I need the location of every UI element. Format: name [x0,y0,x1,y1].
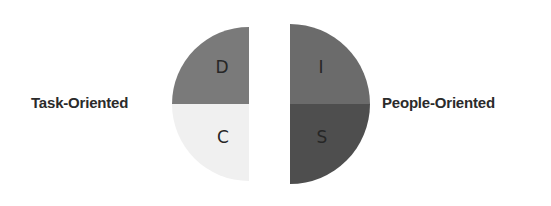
quadrant-i [290,24,370,104]
quadrant-d [172,27,249,104]
quadrant-i-letter: I [318,57,323,77]
quadrant-s [290,104,370,184]
quadrant-c [172,104,249,181]
quadrant-d-letter: D [215,57,228,77]
disc-diagram: D I S C [0,0,551,206]
quadrant-s-letter: S [317,127,328,147]
quadrant-c-letter: C [217,127,229,147]
